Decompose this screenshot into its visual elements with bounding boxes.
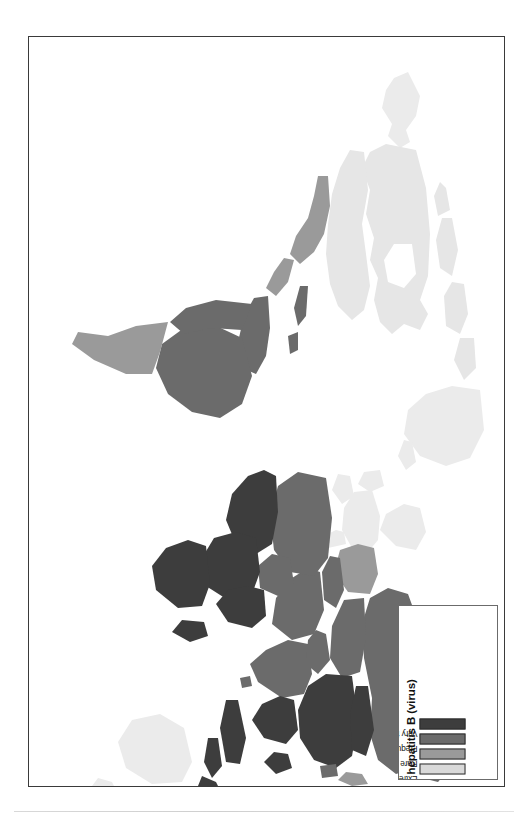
legend-swatch-frequent — [419, 733, 465, 744]
legend-item-frequent: Frequent — [419, 732, 465, 744]
legend-item-very-frequent: Very frequent — [419, 717, 465, 729]
legend-swatch-extremely-rare — [419, 763, 465, 774]
legend-label-frequent: Frequent — [398, 743, 417, 752]
legend-label-extremely-rare: Extremely rare or unknown — [398, 773, 417, 780]
legend-item-extremely-rare: Extremely rare or unknown — [419, 762, 465, 774]
legend-label-rare: Rare — [400, 758, 417, 767]
legend-rotor: hepatitis B (virus) Extremely rare or un… — [400, 607, 496, 778]
map-panel: hepatitis B (virus) Extremely rare or un… — [28, 36, 505, 787]
legend-swatch-rare — [419, 748, 465, 759]
legend-items: Extremely rare or unknown Rare Frequent — [419, 607, 465, 774]
figure-page: hepatitis B (virus) Extremely rare or un… — [0, 0, 528, 822]
legend-label-very-frequent: Very frequent — [398, 728, 417, 737]
page-bottom-rule — [14, 811, 514, 812]
legend-item-rare: Rare — [419, 747, 465, 759]
legend: hepatitis B (virus) Extremely rare or un… — [398, 605, 498, 780]
legend-swatch-very-frequent — [419, 718, 465, 729]
